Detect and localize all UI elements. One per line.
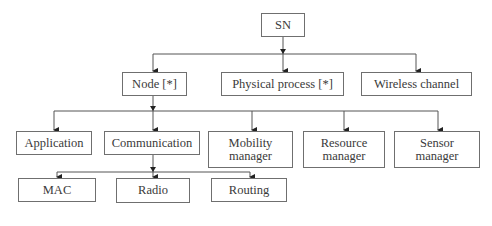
node-resource-manager-label-1: Resource xyxy=(321,137,368,150)
node-mobility-manager-label-1: Mobility xyxy=(229,137,273,150)
arrowhead-comm-junction xyxy=(150,167,156,172)
node-mac: MAC xyxy=(18,178,96,202)
node-radio-label: Radio xyxy=(138,184,168,197)
node-application-label: Application xyxy=(24,137,83,150)
node-application: Application xyxy=(16,131,92,155)
node-resource-manager-label-2: manager xyxy=(322,150,365,163)
node-mobility-manager: Mobility manager xyxy=(208,131,293,168)
node-mac-label: MAC xyxy=(43,184,71,197)
node-mobility-manager-label-2: manager xyxy=(229,150,272,163)
arrowhead-sn-junction xyxy=(280,49,286,54)
node-sn-label: SN xyxy=(275,19,291,32)
node-sensor-manager-label-2: manager xyxy=(415,150,458,163)
node-sensor-manager: Sensor manager xyxy=(394,131,480,168)
node-sn: SN xyxy=(261,13,305,37)
node-physical-process: Physical process [*] xyxy=(221,72,344,96)
node-physical-process-label: Physical process [*] xyxy=(232,78,333,91)
node-node-label: Node [*] xyxy=(132,78,177,91)
node-sensor-manager-label-1: Sensor xyxy=(420,137,454,150)
arrowhead-node-junction xyxy=(150,106,156,111)
node-routing: Routing xyxy=(211,178,287,202)
node-resource-manager: Resource manager xyxy=(303,131,385,168)
node-node: Node [*] xyxy=(122,72,187,96)
node-routing-label: Routing xyxy=(229,184,269,197)
node-radio: Radio xyxy=(116,178,190,203)
node-communication: Communication xyxy=(104,131,200,155)
node-communication-label: Communication xyxy=(112,137,193,150)
node-wireless-channel: Wireless channel xyxy=(361,72,472,96)
node-wireless-channel-label: Wireless channel xyxy=(374,78,459,91)
